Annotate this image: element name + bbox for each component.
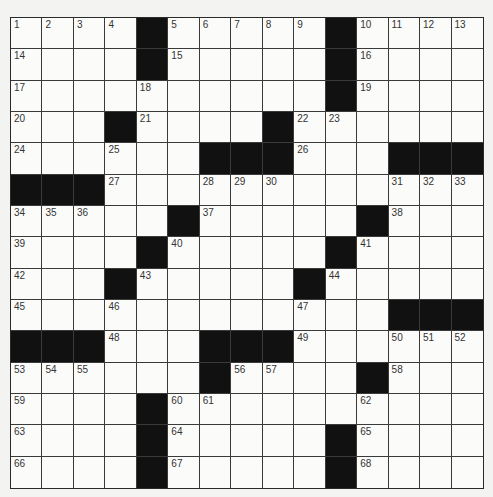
grid-cell[interactable]: 63 <box>11 425 42 456</box>
grid-cell[interactable] <box>74 49 105 80</box>
grid-cell[interactable] <box>294 237 325 268</box>
grid-cell[interactable] <box>74 112 105 143</box>
grid-cell[interactable] <box>357 300 388 331</box>
grid-cell[interactable] <box>105 81 136 112</box>
grid-cell[interactable] <box>452 363 483 394</box>
grid-cell[interactable] <box>420 206 451 237</box>
grid-cell[interactable] <box>326 175 357 206</box>
grid-cell[interactable]: 43 <box>137 269 168 300</box>
grid-cell[interactable] <box>294 425 325 456</box>
grid-cell[interactable] <box>294 363 325 394</box>
grid-cell[interactable]: 17 <box>11 81 42 112</box>
grid-cell[interactable] <box>231 81 262 112</box>
grid-cell[interactable]: 55 <box>74 363 105 394</box>
grid-cell[interactable] <box>200 112 231 143</box>
grid-cell[interactable] <box>105 49 136 80</box>
grid-cell[interactable] <box>326 300 357 331</box>
grid-cell[interactable]: 22 <box>294 112 325 143</box>
grid-cell[interactable] <box>357 143 388 174</box>
grid-cell[interactable] <box>42 425 73 456</box>
grid-cell[interactable] <box>42 143 73 174</box>
grid-cell[interactable]: 18 <box>137 81 168 112</box>
grid-cell[interactable]: 67 <box>168 457 199 488</box>
grid-cell[interactable] <box>42 49 73 80</box>
grid-cell[interactable] <box>326 394 357 425</box>
grid-cell[interactable] <box>105 363 136 394</box>
grid-cell[interactable] <box>200 81 231 112</box>
grid-cell[interactable] <box>74 143 105 174</box>
grid-cell[interactable] <box>168 81 199 112</box>
grid-cell[interactable] <box>452 81 483 112</box>
grid-cell[interactable] <box>357 331 388 362</box>
grid-cell[interactable] <box>420 425 451 456</box>
grid-cell[interactable]: 19 <box>357 81 388 112</box>
grid-cell[interactable] <box>105 237 136 268</box>
grid-cell[interactable]: 25 <box>105 143 136 174</box>
grid-cell[interactable]: 12 <box>420 18 451 49</box>
grid-cell[interactable]: 57 <box>263 363 294 394</box>
grid-cell[interactable]: 3 <box>74 18 105 49</box>
grid-cell[interactable] <box>137 206 168 237</box>
grid-cell[interactable]: 27 <box>105 175 136 206</box>
grid-cell[interactable]: 32 <box>420 175 451 206</box>
grid-cell[interactable]: 49 <box>294 331 325 362</box>
grid-cell[interactable] <box>452 457 483 488</box>
grid-cell[interactable]: 58 <box>389 363 420 394</box>
grid-cell[interactable] <box>168 175 199 206</box>
grid-cell[interactable] <box>200 237 231 268</box>
grid-cell[interactable] <box>231 112 262 143</box>
grid-cell[interactable]: 61 <box>200 394 231 425</box>
grid-cell[interactable]: 35 <box>42 206 73 237</box>
grid-cell[interactable] <box>168 331 199 362</box>
grid-cell[interactable] <box>263 49 294 80</box>
grid-cell[interactable] <box>452 269 483 300</box>
grid-cell[interactable] <box>420 49 451 80</box>
grid-cell[interactable] <box>452 49 483 80</box>
grid-cell[interactable] <box>42 457 73 488</box>
grid-cell[interactable] <box>452 394 483 425</box>
grid-cell[interactable] <box>168 363 199 394</box>
grid-cell[interactable] <box>357 269 388 300</box>
grid-cell[interactable]: 41 <box>357 237 388 268</box>
grid-cell[interactable]: 13 <box>452 18 483 49</box>
grid-cell[interactable] <box>263 457 294 488</box>
grid-cell[interactable]: 36 <box>74 206 105 237</box>
grid-cell[interactable] <box>105 394 136 425</box>
grid-cell[interactable] <box>74 237 105 268</box>
grid-cell[interactable] <box>389 112 420 143</box>
grid-cell[interactable]: 47 <box>294 300 325 331</box>
grid-cell[interactable]: 8 <box>263 18 294 49</box>
grid-cell[interactable] <box>263 300 294 331</box>
grid-cell[interactable] <box>294 394 325 425</box>
grid-cell[interactable]: 60 <box>168 394 199 425</box>
grid-cell[interactable] <box>231 269 262 300</box>
grid-cell[interactable]: 52 <box>452 331 483 362</box>
grid-cell[interactable]: 37 <box>200 206 231 237</box>
grid-cell[interactable]: 46 <box>105 300 136 331</box>
grid-cell[interactable] <box>263 81 294 112</box>
grid-cell[interactable] <box>263 237 294 268</box>
grid-cell[interactable] <box>452 425 483 456</box>
grid-cell[interactable] <box>294 457 325 488</box>
grid-cell[interactable] <box>168 300 199 331</box>
grid-cell[interactable] <box>137 175 168 206</box>
grid-cell[interactable] <box>74 269 105 300</box>
grid-cell[interactable] <box>357 175 388 206</box>
grid-cell[interactable]: 4 <box>105 18 136 49</box>
grid-cell[interactable]: 62 <box>357 394 388 425</box>
grid-cell[interactable] <box>420 237 451 268</box>
grid-cell[interactable] <box>42 300 73 331</box>
grid-cell[interactable]: 54 <box>42 363 73 394</box>
grid-cell[interactable]: 24 <box>11 143 42 174</box>
grid-cell[interactable] <box>74 457 105 488</box>
grid-cell[interactable] <box>231 237 262 268</box>
grid-cell[interactable]: 16 <box>357 49 388 80</box>
grid-cell[interactable] <box>74 425 105 456</box>
grid-cell[interactable] <box>294 175 325 206</box>
grid-cell[interactable] <box>420 363 451 394</box>
grid-cell[interactable] <box>326 331 357 362</box>
grid-cell[interactable]: 29 <box>231 175 262 206</box>
grid-cell[interactable] <box>357 112 388 143</box>
grid-cell[interactable]: 9 <box>294 18 325 49</box>
grid-cell[interactable]: 64 <box>168 425 199 456</box>
